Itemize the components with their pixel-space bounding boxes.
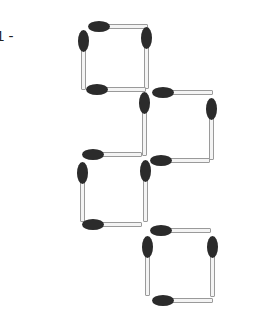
matchstick-head-icon <box>207 236 218 258</box>
matchstick-head-icon <box>88 21 110 32</box>
matchstick-head-icon <box>152 87 174 98</box>
matchstick-head-icon <box>86 84 108 95</box>
puzzle-label: 1 - <box>0 27 14 44</box>
matchstick-head-icon <box>82 149 104 160</box>
matchstick-head-icon <box>77 162 88 184</box>
matchstick-head-icon <box>141 27 152 49</box>
matchstick-head-icon <box>78 30 89 52</box>
matchstick-head-icon <box>140 160 151 182</box>
matchstick-head-icon <box>150 225 172 236</box>
matchstick-head-icon <box>142 236 153 258</box>
matchstick-head-icon <box>152 295 174 306</box>
matchstick-head-icon <box>206 98 217 120</box>
matchstick-head-icon <box>82 219 104 230</box>
matchstick-head-icon <box>139 92 150 114</box>
matchstick-head-icon <box>150 155 172 166</box>
